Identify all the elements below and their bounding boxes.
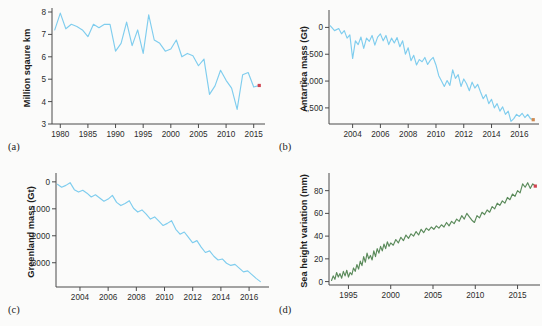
svg-text:2014: 2014 xyxy=(212,293,231,302)
panel-label-d: (d) xyxy=(279,304,291,315)
svg-text:2014: 2014 xyxy=(482,130,501,139)
svg-text:20: 20 xyxy=(314,255,324,264)
svg-text:1990: 1990 xyxy=(106,130,125,139)
chart-c-plot-area: 0-1000-2000-3000200420062008201020122014… xyxy=(0,163,271,326)
chart-b-plot-area: 0-500-1,000-1,50020042006200820102012201… xyxy=(271,0,542,163)
svg-text:2006: 2006 xyxy=(99,293,118,302)
svg-text:6: 6 xyxy=(41,53,46,62)
svg-text:40: 40 xyxy=(314,232,324,241)
panel-label-a: (a) xyxy=(8,141,20,152)
panel-b-antarctica-mass: 0-500-1,000-1,50020042006200820102012201… xyxy=(271,0,542,163)
axis-title-y-a: Million sqaure km xyxy=(22,29,32,108)
climate-indicators-figure: 34567819801985199019952000200520102015Mi… xyxy=(0,0,542,326)
panel-a-arctic-sea-ice: 34567819801985199019952000200520102015Mi… xyxy=(0,0,271,163)
svg-text:2012: 2012 xyxy=(184,293,203,302)
svg-text:1980: 1980 xyxy=(51,130,70,139)
panel-label-c: (c) xyxy=(8,304,20,315)
svg-text:2016: 2016 xyxy=(510,130,529,139)
svg-text:0: 0 xyxy=(318,23,323,32)
svg-text:2008: 2008 xyxy=(399,130,418,139)
svg-text:2006: 2006 xyxy=(371,130,390,139)
axis-title-y-d: Sea height variation (mm) xyxy=(299,174,309,288)
svg-text:4: 4 xyxy=(41,98,46,107)
svg-text:8: 8 xyxy=(41,8,46,17)
svg-text:2010: 2010 xyxy=(427,130,446,139)
panel-c-greenland-mass: 0-1000-2000-3000200420062008201020122014… xyxy=(0,163,271,326)
svg-text:2005: 2005 xyxy=(424,291,443,300)
svg-text:2000: 2000 xyxy=(382,291,401,300)
svg-text:7: 7 xyxy=(41,30,46,39)
svg-text:1995: 1995 xyxy=(134,130,153,139)
svg-text:2010: 2010 xyxy=(155,293,174,302)
svg-text:2015: 2015 xyxy=(245,130,264,139)
chart-d-plot-area: 02040608019952000200520102015Sea height … xyxy=(271,163,542,326)
svg-text:2010: 2010 xyxy=(217,130,236,139)
svg-text:-500: -500 xyxy=(307,50,324,59)
svg-text:2005: 2005 xyxy=(189,130,208,139)
chart-a-plot-area: 34567819801985199019952000200520102015Mi… xyxy=(0,0,271,163)
panel-label-b: (b) xyxy=(279,141,291,152)
svg-text:1995: 1995 xyxy=(339,291,358,300)
svg-text:2000: 2000 xyxy=(162,130,181,139)
svg-text:0: 0 xyxy=(318,278,323,287)
svg-text:60: 60 xyxy=(314,209,324,218)
axis-title-y-b: Antartica mass (Gt) xyxy=(299,26,309,112)
svg-text:0: 0 xyxy=(45,178,50,187)
svg-text:2016: 2016 xyxy=(240,293,259,302)
svg-text:2004: 2004 xyxy=(71,293,90,302)
panel-d-sea-height-variation: 02040608019952000200520102015Sea height … xyxy=(271,163,542,326)
svg-text:2012: 2012 xyxy=(455,130,474,139)
axis-title-y-c: Greenland mass (Gt) xyxy=(26,186,36,277)
svg-text:80: 80 xyxy=(314,187,324,196)
svg-text:5: 5 xyxy=(41,75,46,84)
svg-text:2015: 2015 xyxy=(508,291,527,300)
svg-text:2004: 2004 xyxy=(344,130,363,139)
svg-text:2008: 2008 xyxy=(127,293,146,302)
svg-text:3: 3 xyxy=(41,120,46,129)
svg-text:2010: 2010 xyxy=(466,291,485,300)
svg-text:1985: 1985 xyxy=(79,130,98,139)
